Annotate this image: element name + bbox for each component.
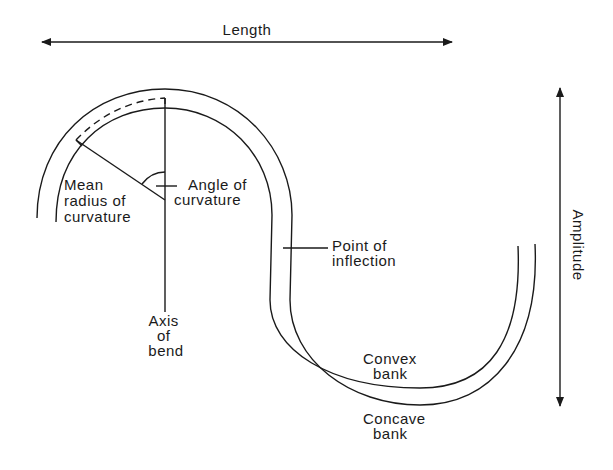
amplitude-dimension: Amplitude (560, 88, 587, 406)
mean-radius-arc (76, 98, 165, 140)
inflection-label: Point of inflection (332, 237, 396, 269)
concave-bank-label: Concave bank (363, 410, 430, 442)
length-dimension: Length (42, 21, 452, 42)
meander-diagram: Length Amplitude Mean radius of curvatur… (0, 0, 613, 470)
angle-arc (142, 172, 165, 184)
length-label: Length (223, 21, 272, 38)
angle-label: Angle of curvature (174, 176, 252, 208)
amplitude-label: Amplitude (570, 209, 587, 280)
channel-outer-bank (37, 89, 535, 405)
convex-bank-label: Convex bank (363, 350, 422, 382)
mean-radius-label: Mean radius of curvature (64, 176, 131, 225)
axis-of-bend-label: Axis of bend (148, 312, 183, 359)
